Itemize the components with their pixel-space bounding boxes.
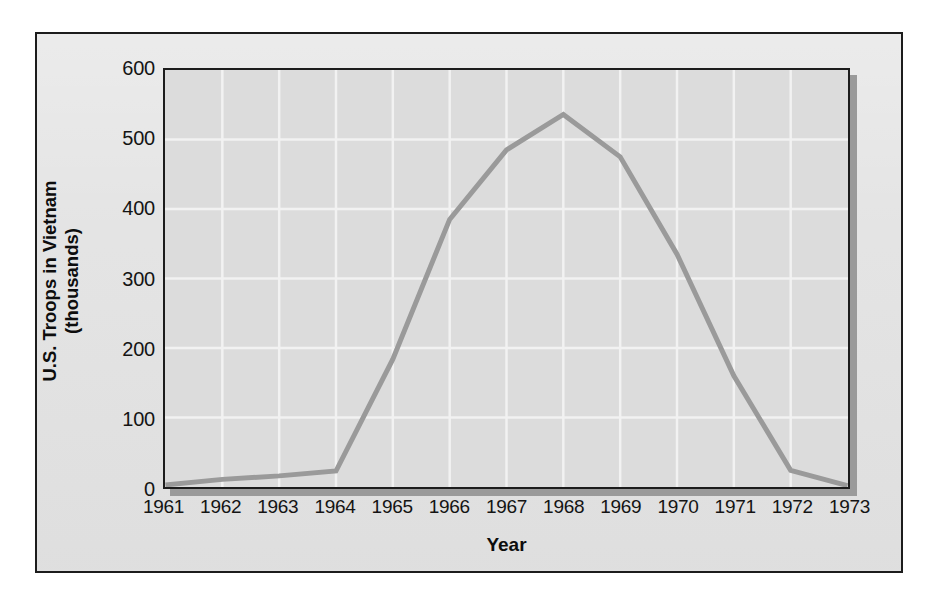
data-line-series — [165, 70, 848, 487]
x-axis-tick-labels: 1961196219631964196519661967196819691970… — [163, 497, 850, 525]
y-axis-title: U.S. Troops in Vietnam (thousands) — [26, 96, 96, 466]
y-axis-title-line2: (thousands) — [61, 180, 83, 381]
x-axis-tick-label: 1973 — [815, 497, 885, 516]
chart-figure: U.S. Troops in Vietnam (thousands) 01002… — [0, 0, 929, 601]
x-axis-title: Year — [163, 534, 850, 556]
y-axis-title-line1: U.S. Troops in Vietnam — [39, 180, 60, 381]
series-line — [165, 114, 847, 485]
plot-area — [163, 68, 850, 489]
